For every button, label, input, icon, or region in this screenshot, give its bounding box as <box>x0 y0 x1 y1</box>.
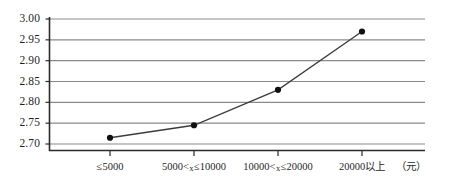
data-point-marker <box>191 122 197 128</box>
data-point-marker <box>107 135 113 141</box>
chart-plot-area <box>0 0 451 182</box>
x-axis-tick-label: ≤5000 <box>97 162 124 173</box>
y-axis-tick-label: 2.95 <box>0 34 40 46</box>
x-axis-tick-label: 5000<x≤10000 <box>162 162 226 173</box>
y-axis-tick-label: 2.75 <box>0 117 40 129</box>
data-series-line <box>110 32 362 138</box>
y-axis-tick-label: 2.70 <box>0 138 40 150</box>
data-point-marker <box>275 87 281 93</box>
x-axis-tick-label: 20000以上 <box>339 162 385 173</box>
x-axis-unit-label: （元） <box>396 162 426 173</box>
line-chart: 2.702.752.802.852.902.953.00 ≤50005000<x… <box>0 0 451 182</box>
y-axis-tick-label: 2.90 <box>0 55 40 67</box>
y-axis-tick-label: 3.00 <box>0 13 40 25</box>
x-axis-tick-label: 10000<x≤20000 <box>243 162 312 173</box>
x-axis-ticks <box>110 151 362 156</box>
y-axis-tick-label: 2.80 <box>0 96 40 108</box>
data-point-markers <box>107 28 365 140</box>
gridlines <box>50 19 426 144</box>
data-point-marker <box>359 28 365 34</box>
y-axis-tick-label: 2.85 <box>0 76 40 88</box>
